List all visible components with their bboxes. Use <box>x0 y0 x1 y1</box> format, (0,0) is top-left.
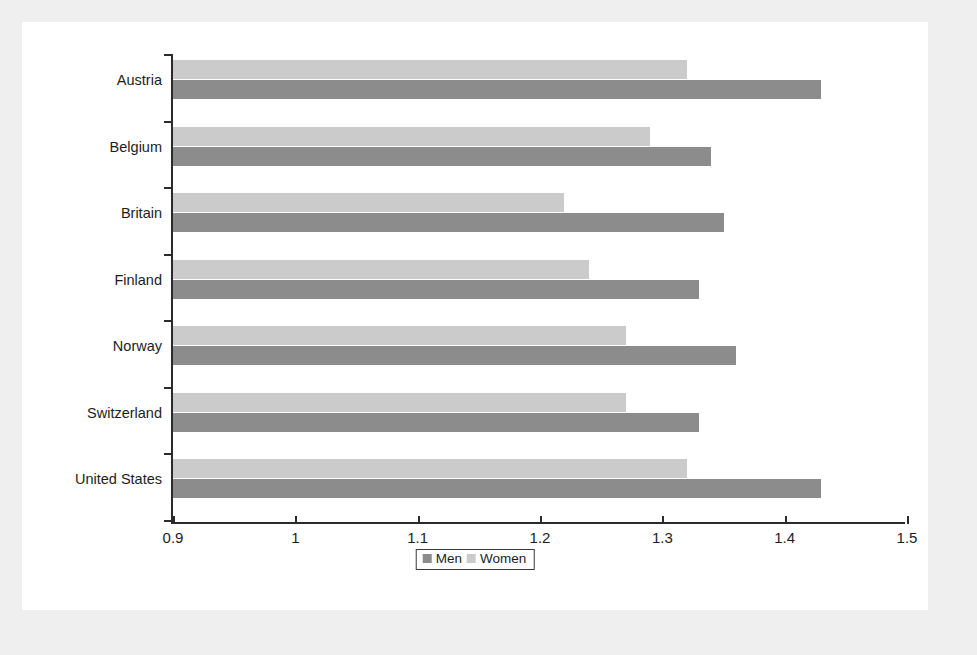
bar-women <box>173 459 687 478</box>
x-axis-tick <box>662 516 664 524</box>
x-axis-tick <box>173 516 175 524</box>
category-label-text: Belgium <box>32 139 162 155</box>
bar-men <box>173 413 699 432</box>
x-axis-tick-label: 1 <box>265 529 325 546</box>
bar-men <box>173 346 736 365</box>
y-axis-tick <box>164 121 172 123</box>
y-axis-tick <box>164 520 172 522</box>
bar-women <box>173 193 564 212</box>
bar-women <box>173 393 626 412</box>
x-axis-tick <box>418 516 420 524</box>
x-axis-tick-label: 1.4 <box>755 529 815 546</box>
x-axis-tick-label: 1.1 <box>388 529 448 546</box>
y-axis-category-label: Norway <box>22 338 162 356</box>
x-axis-tick-label: 1.5 <box>877 529 937 546</box>
bar-women <box>173 127 650 146</box>
category-label-text: Austria <box>32 72 162 88</box>
y-axis-tick <box>164 54 172 56</box>
legend-swatch-men <box>423 554 432 563</box>
y-axis-category-label: Switzerland <box>22 405 162 423</box>
chart-card: AustriaBelgiumBritainFinlandNorwaySwitze… <box>22 22 928 610</box>
y-axis-tick <box>164 320 172 322</box>
category-label-text: Finland <box>32 272 162 288</box>
category-label-text: Switzerland <box>32 405 162 421</box>
y-axis-tick <box>164 187 172 189</box>
x-axis-line <box>171 522 905 524</box>
chart-legend: Men Women <box>416 549 535 570</box>
chart-screenshot: AustriaBelgiumBritainFinlandNorwaySwitze… <box>0 0 977 655</box>
x-axis-tick-label: 1.3 <box>632 529 692 546</box>
bar-women <box>173 326 626 345</box>
x-axis-tick <box>295 516 297 524</box>
category-label-text: Britain <box>32 205 162 221</box>
bar-men <box>173 213 724 232</box>
y-axis-category-label: United States <box>22 471 162 489</box>
x-axis-tick-label: 1.2 <box>510 529 570 546</box>
bar-men <box>173 479 821 498</box>
legend-entry-women: Women <box>467 552 526 566</box>
x-axis-tick <box>540 516 542 524</box>
legend-swatch-women <box>467 554 476 563</box>
x-axis-tick <box>907 516 909 524</box>
y-axis-tick <box>164 254 172 256</box>
x-axis-tick-label: 0.9 <box>143 529 203 546</box>
legend-entry-men: Men <box>423 552 462 566</box>
bar-men <box>173 80 821 99</box>
legend-label-men: Men <box>436 552 462 566</box>
bar-men <box>173 147 711 166</box>
x-axis-tick <box>785 516 787 524</box>
bar-chart-plot-area: AustriaBelgiumBritainFinlandNorwaySwitze… <box>22 22 928 610</box>
bar-men <box>173 280 699 299</box>
legend-label-women: Women <box>480 552 526 566</box>
y-axis-category-label: Britain <box>22 205 162 223</box>
y-axis-tick <box>164 387 172 389</box>
y-axis-category-label: Finland <box>22 272 162 290</box>
y-axis-category-label: Belgium <box>22 139 162 157</box>
bar-women <box>173 60 687 79</box>
y-axis-category-label: Austria <box>22 72 162 90</box>
category-label-text: Norway <box>32 338 162 354</box>
bar-women <box>173 260 589 279</box>
category-label-text: United States <box>32 471 162 487</box>
y-axis-tick <box>164 453 172 455</box>
